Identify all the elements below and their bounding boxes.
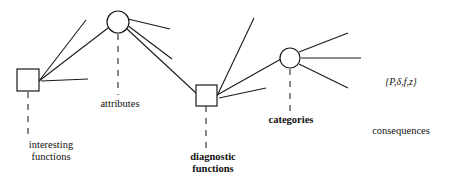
edge-attributes-to-free-right-lower [127,25,172,59]
node-interesting-functions[interactable] [17,69,39,91]
node-label-diagnostic-functions: diagnostic functions [165,151,261,176]
edge-interesting-functions-to-free-right [41,79,88,81]
edge-attributes-to-diagnostic-functions [126,28,196,93]
node-label-attributes: attributes [78,98,162,110]
consequences-text: consequences [355,125,447,137]
edge-group-categories [299,33,361,88]
node-label-consequences-group: {P,δ,f,z} consequences [355,38,447,175]
edge-group-interesting-functions [39,20,108,81]
node-label-interesting-functions: interesting functions [8,139,94,164]
edge-categories-to-free-lower-right [299,64,348,88]
edge-group-diagnostic-functions [217,18,281,98]
edge-attributes-to-free-right-upper [128,19,170,29]
node-diagnostic-functions[interactable] [196,85,217,106]
edge-group-attributes [126,19,196,93]
consequences-set-expression: {P,δ,f,z} [355,76,447,88]
node-attributes[interactable] [107,11,129,33]
node-categories[interactable] [280,48,300,68]
node-label-categories: categories [245,114,337,126]
diagram-canvas: interesting functions attributes diagnos… [0,0,451,188]
edge-categories-to-free-upper-right [299,33,348,52]
